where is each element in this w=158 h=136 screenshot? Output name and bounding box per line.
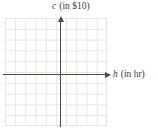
x-axis-variable: h: [113, 69, 118, 79]
x-axis-unit: (in hr): [121, 69, 145, 79]
y-axis-line: [60, 21, 61, 127]
y-axis-unit: (in $10): [59, 1, 89, 11]
y-axis-variable: c: [52, 1, 56, 11]
x-axis-arrow-icon: [105, 72, 111, 78]
grid-area: [5, 18, 107, 126]
y-axis-label: c(in $10): [52, 1, 90, 12]
coordinate-plane-figure: c(in $10) h(in hr): [0, 0, 158, 136]
x-axis-label: h(in hr): [113, 69, 145, 80]
y-axis-arrow-icon: [58, 16, 64, 22]
x-axis-line: [3, 74, 106, 75]
